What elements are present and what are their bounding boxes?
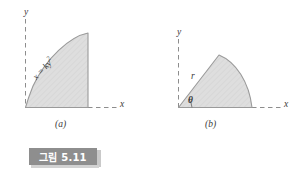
panel-a-sublabel: (a) xyxy=(55,120,66,130)
panel-b-y-axis-label: y xyxy=(177,28,181,38)
figure-5-11: y x x = ky2 (a) y x r θ (b) 그림 5.11 xyxy=(0,0,303,177)
caption-box-shadow-bottom xyxy=(31,165,99,168)
panel-b-angle-label: θ xyxy=(188,96,193,106)
panel-b-radius-label: r xyxy=(191,72,195,82)
figure-caption-text: 그림 5.11 xyxy=(39,149,87,164)
panel-a-y-axis-label: y xyxy=(24,8,28,18)
panel-b-sublabel: (b) xyxy=(205,120,216,130)
panel-a-x-axis-label: x xyxy=(120,100,124,110)
figure-caption-box: 그림 5.11 xyxy=(29,148,97,165)
panel-b-x-axis-label: x xyxy=(284,100,288,110)
